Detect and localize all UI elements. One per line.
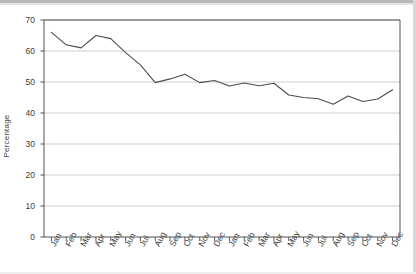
- plot-area: [0, 0, 416, 274]
- axis-ticks: [41, 20, 393, 241]
- gridlines: [44, 20, 400, 206]
- axis-lines: [44, 20, 400, 237]
- chart-container: Percentage 010203040506070 JanFebMarAprM…: [0, 0, 416, 274]
- data-series-line: [51, 32, 392, 104]
